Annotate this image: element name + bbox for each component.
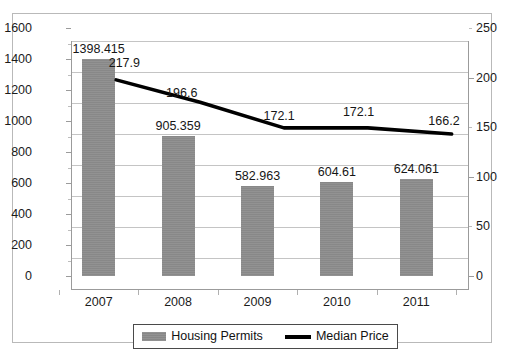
right-axis-label: 100 <box>476 171 497 184</box>
left-axis-tick <box>66 214 71 215</box>
category-label-2007: 2007 <box>59 296 138 309</box>
left-axis-minor-tick <box>68 137 71 138</box>
category-tick <box>59 290 60 295</box>
right-axis-tick <box>469 28 472 29</box>
right-axis-tick <box>469 78 474 79</box>
gridline <box>71 72 468 73</box>
legend-label-median-price: Median Price <box>316 330 389 343</box>
bar-value-label-2009: 582.963 <box>221 170 295 183</box>
category-tick <box>297 290 298 295</box>
right-axis-label: 50 <box>476 220 490 233</box>
right-axis-label: 200 <box>476 72 497 85</box>
left-axis-label: 400 <box>11 208 32 221</box>
right-axis-label: 250 <box>476 22 497 35</box>
right-axis-tick <box>469 226 472 227</box>
left-axis-label: 1400 <box>4 53 32 66</box>
chart-container: 02004006008001000120014001600 0501001502… <box>0 0 507 356</box>
right-axis-tick <box>469 127 472 128</box>
bar-value-label-2011: 624.061 <box>379 163 453 176</box>
bar-value-label-2008: 905.359 <box>141 120 215 133</box>
bar-2008[interactable] <box>162 136 195 276</box>
right-axis-tick <box>469 276 474 277</box>
left-axis-minor-tick <box>68 261 71 262</box>
chart-legend: Housing Permits Median Price <box>133 324 398 349</box>
category-label-2011: 2011 <box>377 296 456 309</box>
category-tick <box>138 290 139 295</box>
gridline <box>71 289 468 290</box>
legend-label-housing-permits: Housing Permits <box>171 330 263 343</box>
gridline <box>71 103 468 104</box>
line-swatch-icon <box>285 335 311 339</box>
gridline <box>71 134 468 135</box>
median-price-label-2010: 172.1 <box>343 106 374 119</box>
median-price-label-2008: 196.6 <box>166 87 197 100</box>
left-axis-tick <box>66 276 71 277</box>
bar-2009[interactable] <box>241 186 274 276</box>
gridline <box>71 41 468 42</box>
left-axis-tick <box>66 28 71 29</box>
left-axis-minor-tick <box>68 230 71 231</box>
left-axis-minor-tick <box>68 199 71 200</box>
bar-2010[interactable] <box>320 182 353 276</box>
legend-item-median-price[interactable]: Median Price <box>285 330 389 343</box>
legend-item-housing-permits[interactable]: Housing Permits <box>142 330 263 343</box>
bar-value-label-2007: 1398.415 <box>62 43 136 56</box>
category-tick <box>218 290 219 295</box>
left-axis-minor-tick <box>68 168 71 169</box>
left-axis-label: 1000 <box>4 115 32 128</box>
category-label-2009: 2009 <box>218 296 297 309</box>
left-axis-minor-tick <box>68 75 71 76</box>
left-axis-label: 600 <box>11 177 32 190</box>
bar-2011[interactable] <box>400 179 433 276</box>
left-axis-label: 0 <box>25 270 32 283</box>
bar-2007[interactable] <box>82 59 115 276</box>
left-axis-tick <box>66 59 71 60</box>
left-axis-label: 800 <box>11 146 32 159</box>
median-price-label-2007: 217.9 <box>109 57 140 70</box>
right-axis-tick <box>469 177 474 178</box>
right-axis-label: 0 <box>476 270 483 283</box>
median-price-label-2009: 172.1 <box>264 110 295 123</box>
left-axis-tick <box>66 90 71 91</box>
left-axis-minor-tick <box>68 106 71 107</box>
category-label-2010: 2010 <box>297 296 376 309</box>
left-axis-spine <box>71 41 72 290</box>
left-axis-tick <box>66 245 71 246</box>
left-axis-tick <box>66 121 71 122</box>
left-axis-label: 1600 <box>4 22 32 35</box>
category-tick <box>456 290 457 295</box>
chart-frame: 02004006008001000120014001600 0501001502… <box>12 13 492 343</box>
category-label-2008: 2008 <box>138 296 217 309</box>
bar-value-label-2010: 604.61 <box>300 166 374 179</box>
bar-swatch-icon <box>142 332 166 341</box>
median-price-label-2011: 166.2 <box>428 115 459 128</box>
left-axis-label: 1200 <box>4 84 32 97</box>
right-axis-label: 150 <box>476 121 497 134</box>
left-axis-tick <box>66 183 71 184</box>
left-axis-tick <box>66 152 71 153</box>
category-tick <box>377 290 378 295</box>
left-axis-label: 200 <box>11 239 32 252</box>
